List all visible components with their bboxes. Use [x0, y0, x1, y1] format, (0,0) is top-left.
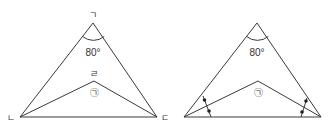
right-diagram: 80° ㉠	[184, 23, 321, 117]
inner-segment-left	[184, 81, 258, 117]
side-apex-left	[20, 23, 93, 117]
inner-angle-label: ㉠	[254, 88, 263, 98]
left-diagram: 80° ㄱ ㄴ ㄷ ㄹ ㉠	[7, 10, 169, 123]
vertex-label-inner: ㄹ	[90, 69, 98, 79]
inner-segment-right	[258, 81, 321, 117]
vertex-label-base-left: ㄴ	[7, 113, 15, 123]
side-apex-left	[184, 23, 257, 117]
right-equal-angle-mark-lower	[300, 110, 304, 114]
apex-angle-label: 80°	[85, 47, 100, 58]
vertex-label-apex: ㄱ	[89, 10, 97, 20]
left-equal-angle-mark-upper	[203, 98, 207, 102]
vertex-label-base-right: ㄷ	[161, 113, 169, 123]
diagram-canvas: 80° ㄱ ㄴ ㄷ ㄹ ㉠ 80° ㉠	[0, 0, 333, 126]
right-equal-angle-mark-upper	[304, 99, 308, 103]
inner-segment-right	[94, 81, 157, 117]
left-equal-angle-mark-lower	[207, 109, 211, 113]
apex-angle-label: 80°	[249, 47, 264, 58]
apex-angle-arc	[83, 37, 105, 41]
apex-angle-arc	[247, 37, 269, 41]
inner-segment-left	[20, 81, 94, 117]
inner-angle-label: ㉠	[90, 88, 99, 98]
